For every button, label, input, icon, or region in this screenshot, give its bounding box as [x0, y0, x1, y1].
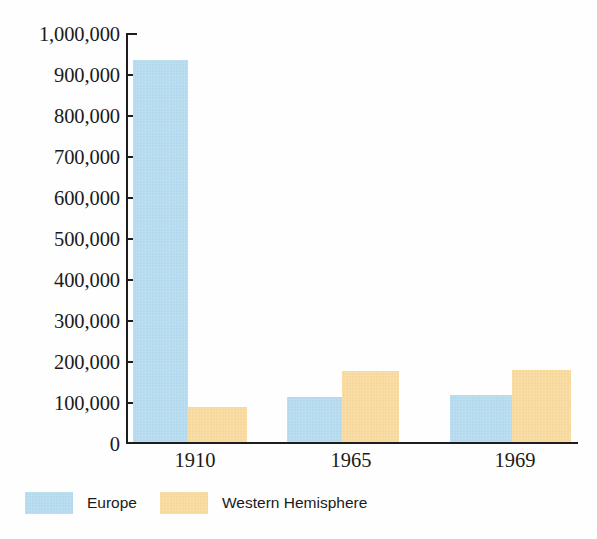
legend-label-europe: Europe	[87, 494, 137, 512]
y-tick-label: 600,000	[2, 188, 120, 209]
y-tick-label: 500,000	[2, 229, 120, 250]
y-tick-label: 900,000	[2, 65, 120, 86]
bar-europe-1910[interactable]	[133, 60, 188, 442]
bar-western-1965[interactable]	[342, 371, 399, 442]
y-tick-label: 400,000	[2, 270, 120, 291]
bar-europe-1969[interactable]	[450, 395, 512, 442]
bar-europe-1965[interactable]	[287, 397, 342, 442]
y-tick-label: 0	[2, 434, 120, 455]
x-tick-label-1910: 1910	[135, 450, 255, 471]
bars-layer	[126, 33, 578, 442]
x-axis-line	[126, 442, 578, 444]
y-axis-labels: 1,000,000 900,000 800,000 700,000 600,00…	[0, 0, 120, 539]
legend-item-europe[interactable]: Europe	[25, 492, 137, 514]
y-tick-label: 100,000	[2, 393, 120, 414]
y-tick-label: 800,000	[2, 106, 120, 127]
y-tick-label: 700,000	[2, 147, 120, 168]
chart-legend: Europe Western Hemisphere	[0, 492, 597, 532]
legend-item-western-hemisphere[interactable]: Western Hemisphere	[160, 492, 367, 514]
bar-western-1910[interactable]	[188, 407, 247, 442]
y-tick-label: 300,000	[2, 311, 120, 332]
x-tick-label-1969: 1969	[455, 450, 575, 471]
legend-label-western-hemisphere: Western Hemisphere	[222, 494, 367, 512]
bar-chart: 1,000,000 900,000 800,000 700,000 600,00…	[0, 0, 597, 539]
legend-swatch-western-hemisphere	[160, 492, 208, 514]
y-tick-label: 200,000	[2, 352, 120, 373]
x-tick-label-1965: 1965	[291, 450, 411, 471]
y-tick-label: 1,000,000	[2, 24, 120, 45]
bar-western-1969[interactable]	[512, 370, 571, 442]
legend-swatch-europe	[25, 492, 73, 514]
